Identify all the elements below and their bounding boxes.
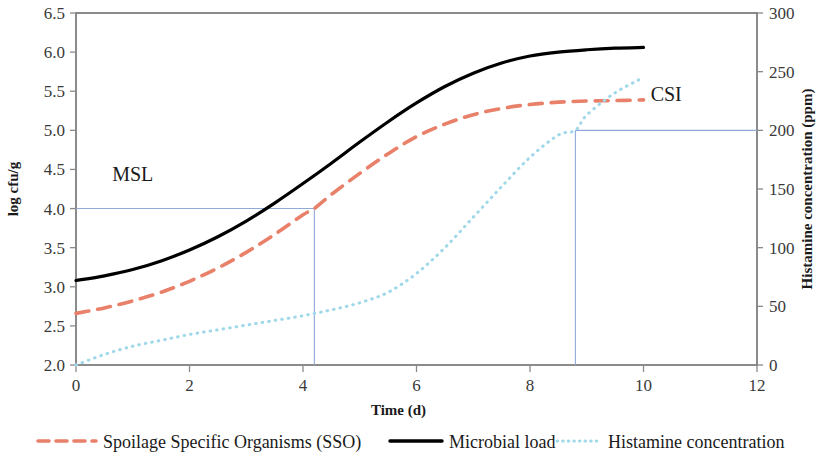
y2-axis-tick-label: 200 [769,121,795,140]
y2-axis-tick-label: 0 [769,356,778,375]
series-line-spoilage-specific-organisms-sso [76,100,644,314]
x-axis-tick-label: 10 [635,376,652,395]
legend-label-1: Microbial load [449,432,555,452]
y-axis-tick-label: 4.5 [44,160,65,179]
y2-axis-tick-label: 100 [769,239,795,258]
x-axis-tick-label: 2 [185,376,194,395]
y2-axis-title: Histamine concentration (ppm) [799,89,816,290]
annotation-csi [575,130,757,365]
y2-axis-tick-label: 50 [769,297,786,316]
y2-axis-tick-label: 150 [769,180,795,199]
legend-label-2: Histamine concentration [608,432,784,452]
y-axis-tick-label: 5.5 [44,82,65,101]
chart-canvas: 2.02.53.03.54.04.55.05.56.06.50501001502… [0,0,828,455]
plot-frame [76,13,757,365]
y-axis-tick-label: 4.0 [44,200,65,219]
y-axis-tick-label: 2.5 [44,317,65,336]
y-axis-tick-label: 5.0 [44,121,65,140]
x-axis-tick-label: 8 [526,376,535,395]
x-axis-tick-label: 6 [412,376,421,395]
annotation-label-msl: MSL [112,163,153,185]
y-axis-tick-label: 2.0 [44,356,65,375]
y-axis-title: log cfu/g [5,161,21,216]
y-axis-tick-label: 6.0 [44,43,65,62]
y2-axis-tick-label: 300 [769,4,795,23]
y2-axis-tick-label: 250 [769,63,795,82]
series-line-histamine-concentration [76,78,644,365]
chart-figure: 2.02.53.03.54.04.55.05.56.06.50501001502… [0,0,828,455]
x-axis-tick-label: 12 [749,376,766,395]
series-line-microbial-load [76,47,644,280]
x-axis-tick-label: 0 [72,376,81,395]
y-axis-tick-label: 6.5 [44,4,65,23]
y-axis-tick-label: 3.5 [44,239,65,258]
x-axis-title: Time (d) [371,402,426,419]
y-axis-tick-label: 3.0 [44,278,65,297]
x-axis-tick-label: 4 [299,376,308,395]
legend-label-0: Spoilage Specific Organisms (SSO) [103,432,361,453]
annotation-label-csi: CSI [651,83,682,105]
